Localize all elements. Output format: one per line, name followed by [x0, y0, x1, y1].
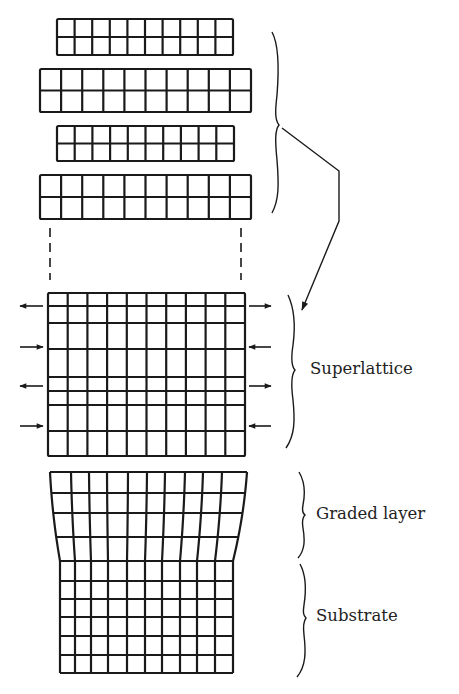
layer-b-top — [40, 69, 251, 112]
brace-substrate — [297, 564, 306, 677]
layer-a-top — [57, 19, 233, 55]
superlattice-grid — [48, 293, 245, 456]
layer-b-bottom — [40, 175, 251, 219]
layer-a-bottom — [57, 126, 234, 161]
substrate-grid — [60, 561, 233, 673]
connector-arrow — [282, 128, 339, 310]
superlattice-diagram — [0, 0, 459, 694]
brace-separate-layers — [272, 32, 279, 213]
brace-superlattice — [286, 295, 295, 448]
graded-layer-grid — [50, 472, 247, 561]
label-graded-layer: Graded layer — [316, 506, 425, 523]
brace-graded-layer — [298, 472, 305, 558]
label-superlattice: Superlattice — [310, 361, 413, 378]
dashed-guides — [50, 228, 241, 280]
unstrained-layers — [40, 19, 251, 219]
label-substrate: Substrate — [316, 608, 398, 625]
